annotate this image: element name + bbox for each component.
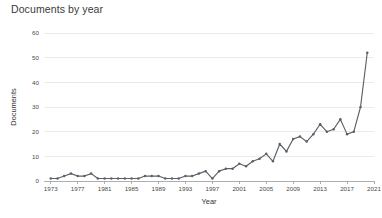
data-point-marker	[359, 106, 362, 109]
data-point-marker	[63, 175, 66, 178]
data-point-marker	[164, 177, 167, 180]
x-tick-label: 1989	[152, 185, 166, 192]
data-point-marker	[49, 177, 52, 180]
chart-container: Documents by year 0102030405060 19731977…	[0, 0, 382, 218]
data-point-marker	[258, 158, 261, 161]
x-tick-label: 1997	[205, 185, 219, 192]
y-tick-label: 50	[32, 54, 39, 61]
data-point-marker	[312, 133, 315, 136]
x-tick-label: 1985	[125, 185, 139, 192]
x-tick-label: 2017	[340, 185, 354, 192]
data-point-marker	[137, 177, 140, 180]
y-axis-label: Documents	[9, 88, 18, 126]
data-point-marker	[285, 150, 288, 153]
plot-area: 0102030405060 19731977198119851989199319…	[0, 0, 382, 218]
data-point-marker	[332, 128, 335, 131]
y-tick-label: 20	[32, 128, 39, 135]
data-point-marker	[326, 130, 329, 133]
data-point-marker	[83, 175, 86, 178]
data-point-marker	[265, 153, 268, 156]
data-point-marker	[305, 140, 308, 143]
y-tick-label: 60	[32, 29, 39, 36]
x-tick-label: 2001	[232, 185, 246, 192]
data-point-marker	[346, 133, 349, 136]
x-tick-label: 1973	[44, 185, 58, 192]
x-tick-label: 2021	[367, 185, 381, 192]
data-point-marker	[218, 170, 221, 173]
data-point-marker	[103, 177, 106, 180]
data-point-marker	[171, 177, 174, 180]
data-point-marker	[177, 177, 180, 180]
gridlines	[44, 33, 374, 156]
data-point-marker	[225, 167, 228, 170]
data-point-marker	[238, 162, 241, 165]
x-axis-ticks: 1973197719811985198919931997200120052009…	[44, 181, 382, 192]
data-series	[49, 51, 368, 179]
data-point-marker	[366, 51, 369, 54]
line-chart-svg: 0102030405060 19731977198119851989199319…	[0, 0, 382, 218]
y-tick-label: 10	[32, 153, 39, 160]
x-tick-label: 2009	[286, 185, 300, 192]
x-axis-label: Year	[202, 197, 217, 206]
x-tick-label: 1981	[98, 185, 112, 192]
data-point-marker	[339, 118, 342, 121]
y-tick-label: 40	[32, 79, 39, 86]
y-tick-label: 30	[32, 103, 39, 110]
data-point-marker	[292, 138, 295, 141]
x-tick-label: 1977	[71, 185, 85, 192]
data-point-marker	[184, 175, 187, 178]
data-point-marker	[204, 170, 207, 173]
data-point-marker	[252, 160, 255, 163]
data-point-marker	[319, 123, 322, 126]
data-point-marker	[90, 172, 93, 175]
data-point-marker	[151, 175, 154, 178]
data-point-marker	[56, 177, 59, 180]
y-axis-ticks: 0102030405060	[32, 29, 39, 184]
data-point-marker	[97, 177, 100, 180]
data-point-marker	[124, 177, 127, 180]
data-point-marker	[76, 175, 79, 178]
data-point-marker	[70, 172, 73, 175]
data-point-marker	[353, 130, 356, 133]
x-tick-label: 1993	[179, 185, 193, 192]
data-point-marker	[272, 160, 275, 163]
data-point-marker	[144, 175, 147, 178]
data-point-marker	[110, 177, 113, 180]
data-point-marker	[211, 177, 214, 180]
x-tick-label: 2013	[313, 185, 327, 192]
data-point-marker	[191, 175, 194, 178]
series-line	[51, 53, 368, 179]
data-point-marker	[245, 165, 248, 168]
data-point-marker	[198, 172, 201, 175]
y-tick-label: 0	[36, 177, 40, 184]
data-point-marker	[231, 167, 234, 170]
data-point-marker	[130, 177, 133, 180]
data-point-marker	[117, 177, 120, 180]
data-point-marker	[278, 143, 281, 146]
x-tick-label: 2005	[259, 185, 273, 192]
data-point-marker	[157, 175, 160, 178]
data-point-marker	[299, 135, 302, 138]
